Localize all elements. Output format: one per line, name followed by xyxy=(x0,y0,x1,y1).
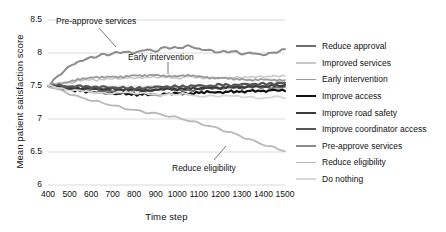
legend-color-swatch xyxy=(296,62,316,64)
legend-label: Improved services xyxy=(322,58,391,68)
legend-color-swatch xyxy=(296,79,316,81)
legend-item[interactable]: Reduce approval xyxy=(296,38,446,55)
legend-label: Do nothing xyxy=(322,174,363,184)
legend-label: Reduce eligibility xyxy=(322,157,386,167)
gridlines xyxy=(48,20,285,185)
annotation-label: Early intervention xyxy=(128,52,194,62)
legend-item[interactable]: Early intervention xyxy=(296,71,446,88)
legend-item[interactable]: Do nothing xyxy=(296,171,446,188)
legend-label: Reduce approval xyxy=(322,41,386,51)
legend-label: Improve coordinator access xyxy=(322,124,426,134)
legend-label: Improve access xyxy=(322,91,382,101)
annotation-label: Reduce eligibility xyxy=(172,163,236,173)
legend-item[interactable]: Reduce eligibility xyxy=(296,154,446,171)
legend-item[interactable]: Improve road safety xyxy=(296,104,446,121)
legend-item[interactable]: Pre-approve services xyxy=(296,138,446,155)
legend-label: Improve road safety xyxy=(322,108,397,118)
legend-color-swatch xyxy=(296,112,316,114)
legend-label: Pre-approve services xyxy=(322,141,402,151)
legend-color-swatch xyxy=(296,162,316,164)
legend-color-swatch xyxy=(296,145,316,147)
chart-figure: Mean patient satisfaction score Time ste… xyxy=(0,0,446,232)
legend-label: Early intervention xyxy=(322,74,388,84)
chart-legend: Reduce approvalImproved servicesEarly in… xyxy=(296,38,446,187)
legend-color-swatch xyxy=(296,178,316,180)
legend-item[interactable]: Improved services xyxy=(296,55,446,72)
legend-item[interactable]: Improve access xyxy=(296,88,446,105)
annotation-label: Pre-approve services xyxy=(56,16,136,26)
legend-color-swatch xyxy=(296,45,316,47)
legend-color-swatch xyxy=(296,128,316,130)
legend-item[interactable]: Improve coordinator access xyxy=(296,121,446,138)
legend-color-swatch xyxy=(296,95,316,97)
